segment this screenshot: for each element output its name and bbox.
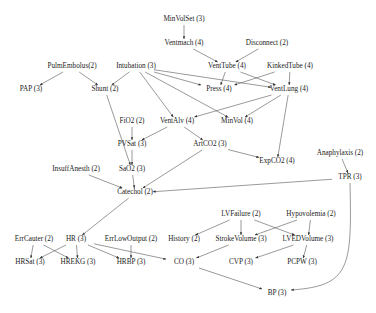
node-errlowoutput: ErrLowOutput (2) (105, 236, 158, 243)
edge-pulmembolus-to-pap (40, 72, 63, 85)
edge-venttube-to-ventlung (240, 72, 275, 85)
edge-sao2-to-catechol (133, 175, 135, 188)
edge-ventalv-to-artco2 (184, 127, 203, 140)
node-artco2: ArtCO2 (3) (193, 141, 226, 148)
edge-anaphylaxis-to-tpr (342, 159, 348, 173)
node-catechol: Catechol (2) (117, 189, 153, 196)
edge-hypovolemia-to-strokevolume (255, 220, 297, 235)
node-cvp: CVP (3) (229, 259, 253, 266)
node-ventlung: VentLung (4) (270, 86, 309, 93)
node-kinkedtube: KinkedTube (4) (267, 63, 313, 70)
edge-hypovolemia-to-lvedvolume (309, 220, 311, 235)
node-co: CO (3) (174, 259, 194, 266)
node-lvedvolume: LVEDVolume (3) (283, 236, 334, 243)
node-minvolset: MinVolSet (3) (163, 16, 204, 23)
node-sao2: SaO2 (3) (119, 166, 145, 173)
node-pulmembolus: PulmEmbolus(2) (47, 63, 96, 70)
edge-shunt-to-sao2 (107, 95, 131, 165)
edge-artco2-to-expco2 (228, 150, 259, 158)
edge-hr-to-hrbp (88, 245, 119, 258)
node-fio2: FiO2 (2) (120, 118, 145, 125)
node-hrsat: HRSat (3) (15, 259, 44, 266)
edge-venttube-to-press (221, 72, 226, 85)
node-hr: HR (3) (66, 236, 86, 243)
node-hrekg: HREKG (3) (61, 259, 96, 266)
edge-ventalv-to-pvsat (142, 127, 167, 140)
node-intubation: Intubation (3) (116, 63, 156, 70)
edge-artco2-to-catechol (143, 150, 202, 188)
edge-insuffanesth-to-catechol (89, 175, 122, 188)
node-hrbp: HRBP (3) (117, 259, 146, 266)
node-strokevolume: StrokeVolume (3) (215, 236, 266, 243)
node-pap: PAP (3) (20, 86, 42, 93)
edge-hr-to-hrekg (76, 245, 77, 258)
edge-tpr-to-catechol (153, 179, 332, 191)
node-tpr: TPR (3) (338, 174, 361, 181)
edge-pulmembolus-to-shunt (79, 72, 98, 85)
edge-disconnect-to-venttube (236, 49, 259, 62)
node-hypovolemia: Hypovolemia (2) (286, 211, 335, 218)
edge-ventlung-to-minvol (245, 95, 281, 117)
node-insuffanesth: InsuffAnesth (2) (52, 166, 100, 173)
edge-lvfailure-to-history (195, 220, 229, 235)
node-minvol: MinVol (4) (221, 118, 253, 125)
edge-strokevolume-to-co (196, 245, 228, 258)
edge-catechol-to-hr (82, 198, 128, 235)
node-history: History (2) (168, 236, 200, 243)
edge-hr-to-co (94, 244, 166, 259)
edge-errcauter-to-hrsat (31, 245, 33, 258)
edge-intubation-to-press (154, 72, 201, 85)
node-ventmach: Ventmach (4) (165, 40, 204, 47)
node-errcauter: ErrCauter (2) (15, 236, 54, 243)
edge-ventlung-to-expco2 (278, 95, 288, 157)
edge-intubation-to-ventalv (140, 72, 174, 117)
node-bp: BP (3) (268, 290, 287, 297)
edge-lvedvolume-to-cvp (256, 245, 294, 258)
node-anaphylaxis: Anaphylaxis (2) (317, 150, 364, 157)
edge-co-to-bp (199, 268, 262, 289)
node-ventalv: VentAlv (4) (160, 118, 194, 125)
edge-ventmach-to-venttube (193, 49, 217, 62)
node-shunt: Shunt (2) (92, 86, 119, 93)
node-disconnect: Disconnect (2) (246, 40, 289, 47)
edge-errcauter-to-hrekg (44, 245, 69, 258)
node-pcpw: PCPW (3) (287, 259, 317, 266)
edge-lvedvolume-to-pcpw (303, 245, 306, 258)
edge-kinkedtube-to-ventlung (289, 72, 290, 85)
node-lvfailure: LVFailure (2) (221, 211, 260, 218)
node-expco2: ExpCO2 (4) (259, 158, 294, 165)
node-venttube: VentTube (4) (208, 63, 246, 70)
edge-ventlung-to-ventalv (195, 95, 272, 117)
edge-intubation-to-shunt (112, 72, 130, 85)
node-pvsat: PVSat (3) (118, 141, 147, 148)
edge-hr-to-hrsat (40, 245, 66, 258)
node-press: Press (4) (206, 86, 231, 93)
bayesian-network-diagram: MinVolSet (3)Ventmach (4)Disconnect (2)P… (0, 0, 376, 313)
edge-kinkedtube-to-press (234, 72, 274, 85)
